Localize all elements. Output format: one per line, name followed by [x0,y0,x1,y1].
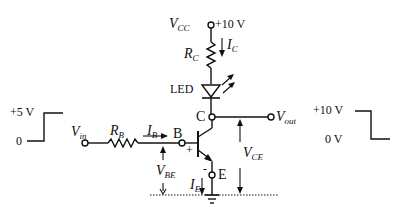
output-low-label: 0 V [325,133,342,145]
vbe-up-arrow [160,146,166,153]
rb-label: RB [110,124,124,140]
ie-label: IE [190,178,200,194]
emitter-node-label: E [218,168,227,182]
emitter-terminal [209,172,215,178]
minus-sign: - [203,163,207,175]
ib-label: IB [147,124,157,140]
vcc-terminal [208,22,214,28]
output-step-waveform [355,111,390,139]
input-low-label: 0 [16,135,22,147]
vcc-value: +10 V [215,18,245,30]
vbe-label: VBE [156,164,176,180]
collector-resistor-icon [207,42,215,68]
vce-label: VCE [243,146,263,162]
base-node-label: B [173,127,182,141]
collector-node-label: C [196,110,205,124]
plus-sign: + [186,144,193,156]
vcc-label: VCC [169,17,190,33]
led-label: LED [170,83,193,95]
output-high-label: +10 V [313,104,343,116]
collector-terminal [209,114,215,120]
input-high-label: +5 V [10,106,34,118]
collector-current-arrow [219,50,225,57]
ic-label: IC [227,38,238,54]
vout-label: Vout [276,110,296,126]
vce-down-arrow [237,187,243,194]
rc-label: RC [184,47,199,63]
vce-up-arrow [237,119,243,126]
vout-terminal [268,114,274,120]
base-resistor-icon [108,139,138,147]
led-icon [202,85,220,97]
circuit-diagram: VCC +10 V RC IC LED C Vout +5 V 0 +10 V … [0,0,395,216]
vin-label: Vin [71,125,87,141]
base-current-arrow [161,133,168,139]
